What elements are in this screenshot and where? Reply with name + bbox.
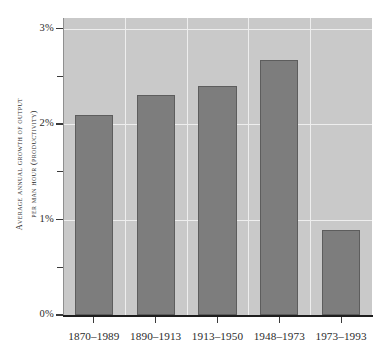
bar-1973–1993 [322, 230, 360, 315]
y-tick-label-2%: 2% [12, 117, 54, 128]
bar-1890–1913 [137, 95, 175, 315]
plot-area [63, 18, 372, 315]
x-tick-1948–1973 [279, 317, 280, 323]
x-tick-label-1913–1950: 1913–1950 [187, 330, 249, 342]
gridline-vertical [310, 18, 311, 315]
x-tick-label-1973–1993: 1973–1993 [310, 330, 372, 342]
bar-1948–1973 [260, 60, 298, 315]
gridline-vertical [125, 18, 126, 315]
x-tick-label-1948–1973: 1948–1973 [248, 330, 310, 342]
y-axis-line [63, 18, 64, 315]
bar-1913–1950 [198, 86, 236, 315]
x-tick-label-1870–1989: 1870–1989 [63, 330, 125, 342]
gridline-vertical [248, 18, 249, 315]
gridline-horizontal [63, 29, 372, 30]
bar-1870–1989 [75, 115, 113, 316]
y-tick-minor-2.5 [57, 76, 63, 77]
y-tick-minor-0.5 [57, 267, 63, 268]
y-tick-major-1 [56, 219, 63, 220]
x-tick-label-1890–1913: 1890–1913 [125, 330, 187, 342]
y-tick-label-3%: 3% [12, 22, 54, 33]
x-tick-1890–1913 [155, 317, 156, 323]
y-tick-minor-1.5 [57, 171, 63, 172]
y-tick-major-3 [56, 28, 63, 29]
x-tick-1870–1989 [93, 317, 94, 323]
gridline-vertical [187, 18, 188, 315]
x-tick-1913–1950 [217, 317, 218, 323]
y-tick-major-2 [56, 123, 63, 124]
bar-chart-figure: Average annual growth of output per man … [0, 0, 375, 357]
x-tick-1973–1993 [341, 317, 342, 323]
y-axis-title: Average annual growth of output per man … [10, 14, 46, 314]
y-tick-major-0 [56, 314, 63, 315]
y-tick-label-1%: 1% [12, 213, 54, 224]
y-tick-label-0%: 0% [12, 308, 54, 319]
